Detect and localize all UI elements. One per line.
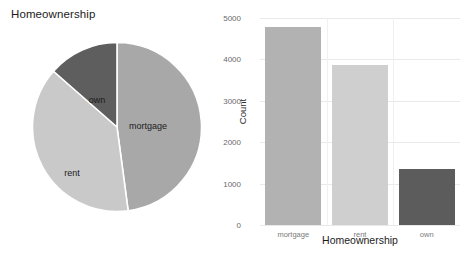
bar-own bbox=[399, 169, 455, 225]
y-tick-label-2000: 2000 bbox=[201, 138, 241, 147]
chart-figure: Homeownership mortgage rent own Count 01… bbox=[0, 0, 475, 273]
gridline-y-5000 bbox=[260, 18, 460, 19]
pie-chart-title: Homeownership bbox=[11, 8, 95, 20]
bar-chart-panel: Count 010002000300040005000 mortgagerent… bbox=[225, 0, 475, 273]
gridline-y-0 bbox=[260, 225, 460, 226]
gridline-x-2 bbox=[393, 18, 394, 225]
pie-chart-panel: Homeownership mortgage rent own bbox=[0, 0, 225, 273]
y-tick-label-5000: 5000 bbox=[201, 14, 241, 23]
pie-slice-label-mortgage: mortgage bbox=[129, 121, 167, 131]
y-tick-label-1000: 1000 bbox=[201, 179, 241, 188]
gridline-x-1 bbox=[327, 18, 328, 225]
bar-chart-y-axis-label: Count bbox=[237, 82, 248, 142]
y-tick-label-4000: 4000 bbox=[201, 55, 241, 64]
pie-slice-group bbox=[32, 43, 201, 212]
bar-mortgage bbox=[265, 27, 321, 225]
pie-chart-graphic: mortgage rent own bbox=[32, 42, 202, 212]
bar-chart-plot-area: 010002000300040005000 mortgagerentown bbox=[260, 18, 460, 225]
y-tick-label-0: 0 bbox=[201, 221, 241, 230]
pie-slice-label-rent: rent bbox=[64, 168, 80, 178]
pie-svg bbox=[32, 42, 202, 212]
bar-chart-x-axis-label: Homeownership bbox=[260, 234, 460, 246]
pie-slice-label-own: own bbox=[89, 95, 106, 105]
y-tick-label-3000: 3000 bbox=[201, 96, 241, 105]
bar-rent bbox=[332, 65, 388, 225]
